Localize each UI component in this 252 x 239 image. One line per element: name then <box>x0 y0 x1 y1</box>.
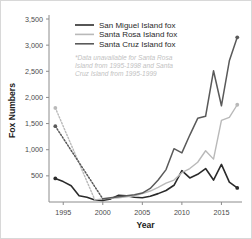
x-tick-label: 2010 <box>174 208 190 217</box>
x-tick-label: 2005 <box>134 208 150 217</box>
x-tick-label: 1995 <box>55 208 71 217</box>
annotation-line: *Data unavailable for Santa Rosa <box>75 54 173 61</box>
y-tick-label: 3,500 <box>25 15 43 24</box>
chart-legend: San Miguel Island foxSanta Rosa Island f… <box>75 21 177 49</box>
legend-label: Santa Cruz Island fox <box>99 40 175 49</box>
series-line <box>95 105 237 200</box>
y-axis-ticks: 5001,0001,5002,0002,5003,0003,500 <box>25 15 49 181</box>
x-axis-title: Year <box>136 220 155 230</box>
y-tick-label: 1,000 <box>25 145 43 154</box>
chart-plot-area: 5001,0001,5002,0002,5003,0003,500 199520… <box>1 1 252 239</box>
legend-label: Santa Rosa Island fox <box>99 30 177 39</box>
series-end-marker <box>235 35 239 39</box>
series-dotted-segment <box>55 108 95 200</box>
y-axis-title: Fox Numbers <box>7 83 17 138</box>
y-tick-label: 2,500 <box>25 67 43 76</box>
series-end-marker <box>235 103 239 107</box>
annotation-line: Island from 1995-1998 and Santa <box>75 62 173 69</box>
y-tick-label: 500 <box>31 171 43 180</box>
x-tick-label: 2015 <box>213 208 229 217</box>
series-start-marker <box>53 124 57 128</box>
legend-label: San Miguel Island fox <box>99 21 176 30</box>
series-start-marker <box>53 106 57 110</box>
series-end-marker <box>235 186 239 190</box>
chart-frame: 5001,0001,5002,0002,5003,0003,500 199520… <box>0 0 252 239</box>
y-tick-label: 3,000 <box>25 41 43 50</box>
series-start-marker <box>53 177 57 181</box>
x-tick-label: 2000 <box>95 208 111 217</box>
annotation-line: Cruz Island from 1995-1999 <box>75 70 157 77</box>
series-dotted-segment <box>55 126 102 199</box>
fox-population-line-chart: 5001,0001,5002,0002,5003,0003,500 199520… <box>1 1 252 239</box>
y-tick-label: 1,500 <box>25 119 43 128</box>
x-axis-ticks: 19952000200520102015 <box>55 202 229 217</box>
chart-annotation-note: *Data unavailable for Santa RosaIsland f… <box>75 54 173 77</box>
y-tick-label: 2,000 <box>25 93 43 102</box>
